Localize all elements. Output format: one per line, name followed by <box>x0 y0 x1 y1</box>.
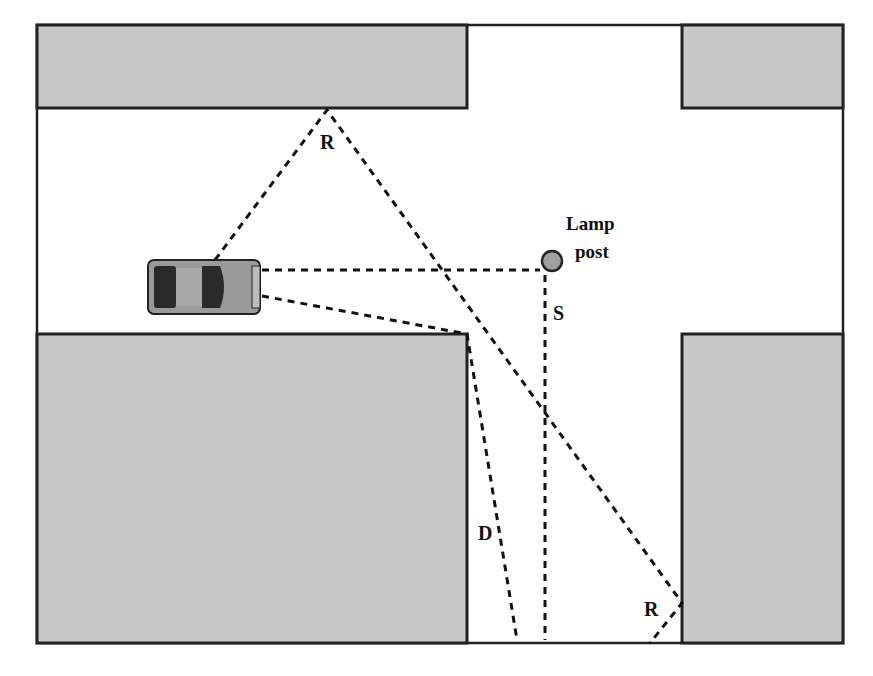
label-lamp-line1: Lamp <box>566 213 615 234</box>
label-direct: D <box>478 522 492 544</box>
label-lamp-line2: post <box>575 241 609 262</box>
label-reflection-bottom: R <box>644 598 659 620</box>
building-top-right <box>682 25 843 108</box>
building-bottom-left <box>37 334 467 643</box>
building-bottom-right <box>682 334 843 643</box>
car-icon <box>148 260 260 314</box>
label-reflection-top: R <box>320 131 335 153</box>
lamp-post-icon <box>542 251 562 271</box>
label-scatter: S <box>553 302 564 324</box>
building-top-left <box>37 25 467 108</box>
intersection-diagram: R S Lamp post D R <box>0 0 873 676</box>
